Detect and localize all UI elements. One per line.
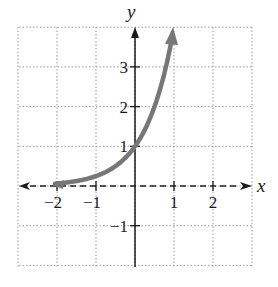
y-tick-label: 2 <box>120 98 129 117</box>
y-tick-label: −1 <box>110 217 128 236</box>
exponential-graph: −2−112−1123 x y <box>0 0 278 287</box>
x-tick-label: 1 <box>170 193 179 212</box>
x-axis-label: x <box>256 175 266 196</box>
x-tick-label: −2 <box>44 193 62 212</box>
x-tick-label: 2 <box>209 193 218 212</box>
function-curve <box>55 38 172 184</box>
y-axis-label: y <box>125 1 136 22</box>
x-tick-label: −1 <box>83 193 101 212</box>
y-tick-label: 3 <box>120 58 129 77</box>
y-tick-label: 1 <box>120 137 129 156</box>
